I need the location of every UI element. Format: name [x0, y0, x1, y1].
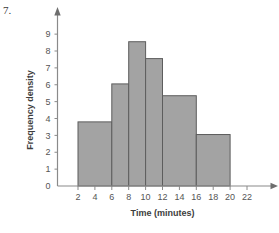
histogram-bar: [163, 96, 197, 186]
x-axis-tick-label: 2: [75, 192, 80, 202]
x-axis-tick-label: 18: [208, 192, 218, 202]
x-axis-arrow-icon: [271, 183, 279, 189]
y-axis-tick-label: 5: [45, 97, 50, 107]
y-axis-arrow-icon: [54, 7, 60, 16]
bars-group: [78, 42, 230, 186]
y-axis-tick-label: 9: [45, 29, 50, 39]
y-axis-tick-label: 4: [45, 114, 50, 124]
x-axis-tick-label: 8: [126, 192, 131, 202]
x-axis-tick-label: 16: [191, 192, 201, 202]
y-axis-ticks: 0123456789: [45, 29, 57, 191]
y-axis-tick-label: 0: [45, 181, 50, 191]
x-axis-title: Time (minutes): [131, 208, 195, 218]
x-axis-tick-label: 20: [225, 192, 235, 202]
y-axis-tick-label: 7: [45, 63, 50, 73]
histogram-bar: [78, 122, 112, 186]
x-axis-tick-label: 14: [174, 192, 184, 202]
histogram-figure: 7. 0123456789 246810121416182022 Time (m…: [0, 0, 279, 233]
y-axis-tick-label: 8: [45, 46, 50, 56]
histogram-plot: 0123456789 246810121416182022 Time (minu…: [0, 0, 279, 233]
x-axis-tick-label: 22: [242, 192, 252, 202]
y-axis-tick-label: 6: [45, 80, 50, 90]
y-axis-tick-label: 3: [45, 131, 50, 141]
histogram-bar: [196, 135, 230, 186]
histogram-bar: [146, 59, 163, 186]
y-axis-tick-label: 2: [45, 147, 50, 157]
y-axis-tick-label: 1: [45, 164, 50, 174]
x-axis-tick-label: 6: [109, 192, 114, 202]
y-axis-title: Frequency density: [25, 70, 35, 150]
x-axis-tick-label: 12: [157, 192, 167, 202]
x-axis-ticks: 246810121416182022: [75, 186, 252, 202]
histogram-bar: [129, 42, 146, 186]
x-axis-tick-label: 4: [92, 192, 97, 202]
x-axis-tick-label: 10: [141, 192, 151, 202]
histogram-bar: [112, 84, 129, 186]
